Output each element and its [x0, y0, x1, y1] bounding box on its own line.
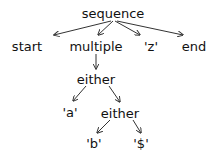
edge-sequence-start [54, 21, 111, 35]
node-a: 'a' [62, 106, 77, 119]
node-start: start [12, 40, 42, 53]
node-either-2: either [101, 107, 139, 120]
edge-either2-b [97, 120, 110, 133]
node-sequence: sequence [82, 7, 145, 20]
node-b: 'b' [86, 137, 101, 150]
node-z: 'z' [144, 40, 158, 53]
edge-either1-a [73, 86, 86, 101]
node-multiple: multiple [69, 40, 122, 53]
tree-diagram: sequence start multiple 'z' end either '… [0, 0, 211, 160]
edge-either2-dollar [133, 120, 141, 133]
edge-sequence-multiple [98, 21, 113, 35]
node-either-1: either [77, 73, 115, 86]
node-dollar: '$' [133, 137, 148, 150]
node-end: end [182, 40, 207, 53]
edge-either1-either2 [109, 86, 120, 102]
